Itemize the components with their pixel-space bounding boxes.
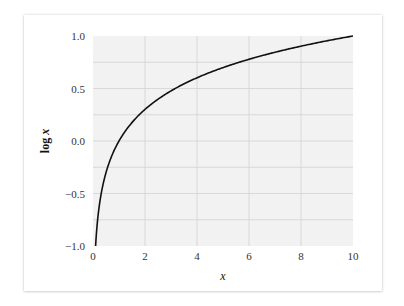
y-axis-label: log x [38, 129, 52, 153]
x-axis-label: x [219, 269, 226, 283]
x-tick-label: 8 [298, 250, 304, 262]
log-chart: 0246810 1.00.50.0−0.5−1.0 x log x [0, 0, 404, 306]
x-tick-label: 6 [246, 250, 252, 262]
y-tick-label: −0.5 [65, 188, 85, 200]
y-tick-label: 1.0 [71, 30, 85, 42]
y-axis-ticks: 1.00.50.0−0.5−1.0 [65, 30, 85, 252]
y-tick-label: 0.5 [71, 83, 85, 95]
x-axis-ticks: 0246810 [90, 250, 359, 262]
x-tick-label: 0 [90, 250, 96, 262]
x-tick-label: 2 [142, 250, 148, 262]
x-tick-label: 4 [194, 250, 200, 262]
y-tick-label: −1.0 [65, 240, 85, 252]
x-tick-label: 10 [348, 250, 360, 262]
y-tick-label: 0.0 [71, 135, 85, 147]
